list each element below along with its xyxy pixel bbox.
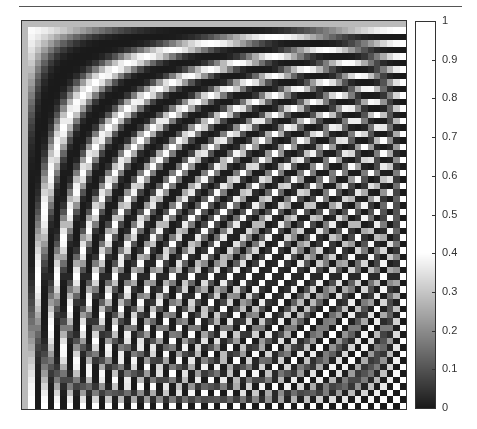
heatmap-plot [22, 21, 406, 409]
tick-label: 0.4 [442, 246, 457, 258]
tick-mark [432, 369, 436, 370]
tick-mark [432, 21, 436, 22]
tick-label: 0.6 [442, 169, 457, 181]
tick-mark [432, 137, 436, 138]
colorbar-ticks: 00.10.20.30.40.50.60.70.80.91 [436, 21, 477, 409]
tick-label: 0.5 [442, 208, 457, 220]
tick-mark [432, 408, 436, 409]
tick-mark [432, 253, 436, 254]
tick-label: 0.2 [442, 324, 457, 336]
tick-label: 0.8 [442, 91, 457, 103]
tick-mark [432, 176, 436, 177]
tick-label: 0.3 [442, 285, 457, 297]
tick-mark [432, 60, 436, 61]
tick-mark [432, 215, 436, 216]
tick-mark [432, 292, 436, 293]
tick-mark [432, 98, 436, 99]
tick-mark [432, 331, 436, 332]
tick-label: 1 [442, 14, 448, 26]
tick-label: 0 [442, 401, 448, 413]
tick-label: 0.1 [442, 362, 457, 374]
tick-label: 0.7 [442, 130, 457, 142]
top-divider-line [19, 6, 462, 7]
tick-label: 0.9 [442, 53, 457, 65]
